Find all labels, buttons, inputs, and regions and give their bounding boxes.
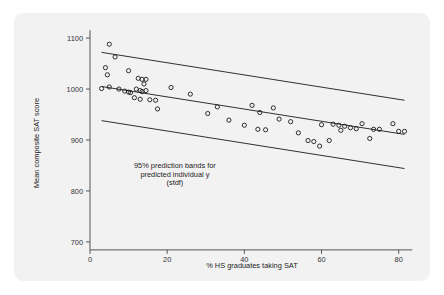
data-point [107, 85, 111, 89]
data-point [360, 122, 364, 126]
y-tick-label: 1100 [67, 34, 83, 43]
x-tick-label: 80 [395, 255, 403, 264]
data-point [154, 98, 158, 102]
data-point [132, 96, 136, 100]
data-point [289, 120, 293, 124]
y-tick-label: 1000 [67, 85, 83, 94]
data-point [138, 97, 142, 101]
data-point [271, 106, 275, 110]
chart-page: 70080090010001100020406080 95% predictio… [0, 0, 444, 295]
data-point [306, 138, 310, 142]
x-tick-label: 0 [88, 255, 92, 264]
scatter-plot: 70080090010001100020406080 95% predictio… [0, 0, 444, 295]
data-point [277, 117, 281, 121]
tick-labels: 70080090010001100020406080 [67, 34, 403, 265]
prediction-bands [102, 52, 405, 168]
data-point [402, 129, 406, 133]
data-point [258, 110, 262, 114]
annotation-text: 95% prediction bands forpredicted indivi… [134, 161, 216, 187]
data-point [250, 103, 254, 107]
annotation-line: predicted individual y [140, 170, 209, 179]
data-point [339, 128, 343, 132]
upper-prediction-band [102, 52, 405, 100]
y-tick-label: 800 [71, 187, 83, 196]
data-point [319, 123, 323, 127]
data-point [113, 55, 117, 59]
data-point [148, 98, 152, 102]
data-point [126, 69, 130, 73]
data-point [144, 88, 148, 92]
data-point [391, 122, 395, 126]
axes [90, 30, 412, 250]
x-tick-label: 20 [163, 255, 171, 264]
y-tick-label: 900 [71, 136, 83, 145]
data-point [256, 127, 260, 131]
data-point [327, 138, 331, 142]
data-point [215, 105, 219, 109]
data-point [142, 82, 146, 86]
data-point [107, 42, 111, 46]
data-point [169, 85, 173, 89]
data-point [318, 144, 322, 148]
data-point [296, 131, 300, 135]
data-point [397, 129, 401, 133]
data-point [242, 123, 246, 127]
y-axis-title: Mean composite SAT score [32, 98, 41, 188]
data-point [368, 136, 372, 140]
data-point [263, 128, 267, 132]
data-point [99, 86, 103, 90]
data-points [99, 42, 406, 148]
data-point [188, 92, 192, 96]
tick-marks [86, 38, 399, 254]
data-point [155, 107, 159, 111]
annotation-line: 95% prediction bands for [134, 161, 216, 170]
annotation-line: (stdf) [166, 178, 183, 187]
data-point [312, 139, 316, 143]
y-tick-label: 700 [71, 238, 83, 247]
fitted-regression-line [102, 87, 405, 135]
x-axis-title: % HS graduates taking SAT [206, 261, 298, 270]
data-point [227, 118, 231, 122]
data-point [206, 111, 210, 115]
data-point [105, 73, 109, 77]
data-point [354, 127, 358, 131]
data-point [103, 66, 107, 70]
x-tick-label: 60 [317, 255, 325, 264]
